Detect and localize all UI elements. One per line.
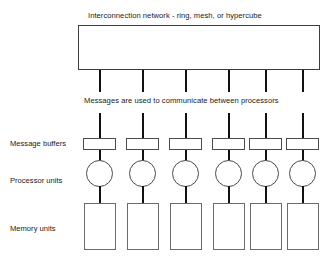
message-link — [99, 113, 101, 138]
row-label-memory-units: Memory units — [10, 225, 56, 233]
message-buffer — [286, 138, 319, 150]
processor-memory-link — [185, 186, 187, 203]
message-link — [228, 113, 230, 138]
memory-unit — [213, 203, 245, 250]
memory-unit — [287, 203, 319, 250]
row-label-processor-units: Processor units — [10, 177, 62, 185]
memory-unit — [84, 203, 116, 250]
node-column — [83, 0, 117, 258]
processor-memory-link — [99, 186, 101, 203]
message-buffer — [212, 138, 245, 150]
network-link — [185, 70, 187, 92]
message-link — [185, 113, 187, 138]
message-link — [302, 113, 304, 138]
node-column — [212, 0, 246, 258]
network-link — [302, 70, 304, 92]
memory-unit — [127, 203, 159, 250]
processor-unit — [129, 160, 156, 187]
network-link — [99, 70, 101, 92]
processor-memory-link — [265, 186, 267, 203]
node-column — [169, 0, 203, 258]
node-column — [286, 0, 320, 258]
processor-memory-link — [302, 186, 304, 203]
processor-unit — [289, 160, 316, 187]
message-buffer — [169, 138, 202, 150]
message-buffer — [249, 138, 282, 150]
message-link — [142, 113, 144, 138]
message-buffer — [83, 138, 116, 150]
message-link — [265, 113, 267, 138]
multiprocessor-architecture-diagram: Interconnection network - ring, mesh, or… — [0, 0, 330, 258]
row-label-message-buffers: Message buffers — [10, 140, 66, 148]
message-buffer — [126, 138, 159, 150]
node-column — [126, 0, 160, 258]
processor-unit — [215, 160, 242, 187]
processor-unit — [172, 160, 199, 187]
network-link — [228, 70, 230, 92]
processor-memory-link — [228, 186, 230, 203]
network-link — [265, 70, 267, 92]
node-column — [249, 0, 283, 258]
network-link — [142, 70, 144, 92]
memory-unit — [170, 203, 202, 250]
processor-memory-link — [142, 186, 144, 203]
processor-unit — [252, 160, 279, 187]
processor-unit — [86, 160, 113, 187]
memory-unit — [250, 203, 282, 250]
